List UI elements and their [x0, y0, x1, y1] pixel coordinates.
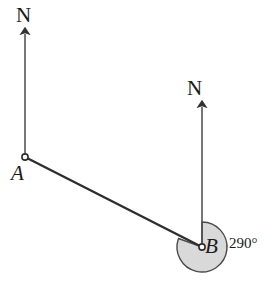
- north-label-a: N: [16, 5, 31, 26]
- bearing-diagram: N N A B 290°: [0, 0, 273, 290]
- point-label-b: B: [205, 236, 218, 257]
- point-marker-a: [22, 154, 28, 160]
- north-label-b: N: [187, 78, 202, 99]
- segment-ab: [25, 157, 202, 247]
- point-label-a: A: [11, 163, 24, 184]
- bearing-angle-label: 290°: [229, 236, 258, 251]
